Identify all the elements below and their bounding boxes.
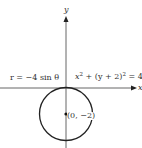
polar-circle-diagram: y x r = −4 sin θ x2 + (y + 2)2 = 4 (0, −… xyxy=(0,0,142,148)
center-point-label: (0, −2) xyxy=(67,112,95,120)
eq-y-term: + (y + 2) xyxy=(83,72,122,81)
x-axis-label: x xyxy=(138,84,142,92)
polar-equation-label: r = −4 sin θ xyxy=(10,74,59,82)
y-axis-label: y xyxy=(64,6,69,14)
y-axis-arrow-icon xyxy=(64,16,69,22)
eq-rhs: = 4 xyxy=(126,72,142,81)
x-axis-arrow-icon xyxy=(131,86,137,91)
cartesian-equation-label: x2 + (y + 2)2 = 4 xyxy=(75,72,142,81)
